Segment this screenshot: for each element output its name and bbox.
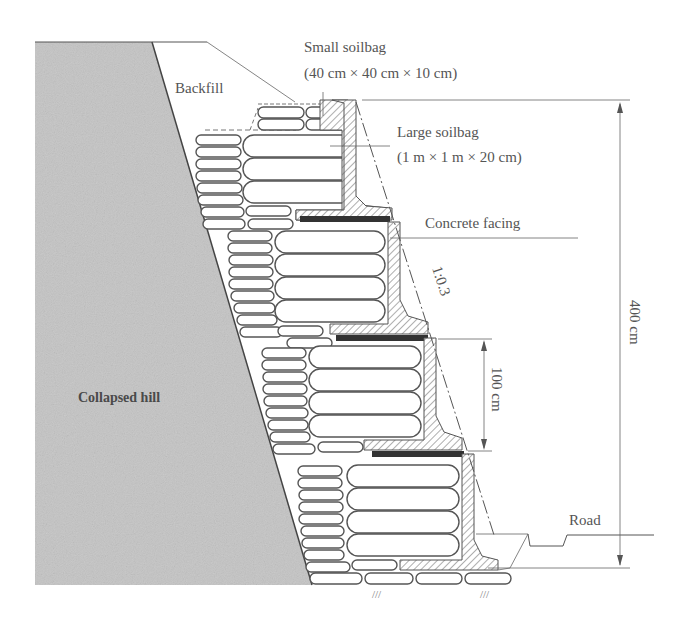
geogrid-3 [372, 451, 464, 457]
large-soilbag-dims: (1 m × 1 m × 20 cm) [397, 149, 522, 166]
road-label: Road [569, 512, 601, 528]
soilbag-tier-3 [262, 338, 464, 457]
total-height-label: 400 cm [627, 300, 643, 345]
soilbag-tier-4: /// /// [298, 454, 511, 600]
road [476, 534, 654, 570]
retaining-wall-diagram: /// /// 1:0.3 400 cm 100 cm Small soilba… [0, 0, 689, 629]
concrete-facing-label: Concrete facing [425, 215, 521, 231]
small-soilbag-dims: (40 cm × 40 cm × 10 cm) [304, 65, 457, 82]
large-soilbag-title: Large soilbag [397, 124, 479, 140]
soilbag-tier-2 [228, 222, 428, 348]
step-height-label: 100 cm [489, 367, 505, 412]
geogrid-2 [336, 335, 428, 341]
backfill-label: Backfill [175, 80, 223, 96]
svg-text:///: /// [372, 588, 382, 600]
geogrid-1 [300, 216, 390, 222]
slope-label: 1:0.3 [429, 264, 454, 298]
collapsed-hill-label: Collapsed hill [78, 390, 160, 405]
svg-text:///: /// [480, 588, 490, 600]
small-soilbag-title: Small soilbag [304, 39, 387, 55]
